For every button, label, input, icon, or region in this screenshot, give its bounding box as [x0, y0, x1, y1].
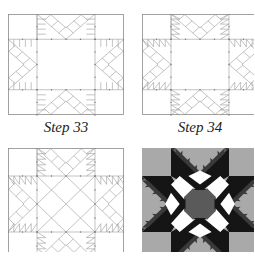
- arm-cell: [110, 190, 117, 196]
- node-dot: [94, 161, 95, 162]
- ladder-diagonal: [229, 39, 235, 47]
- node-dot: [51, 89, 52, 90]
- ladder-diagonal: [220, 100, 229, 105]
- node-dot: [22, 39, 23, 40]
- arm-cell: [186, 102, 193, 108]
- ladder-diagonal: [220, 95, 229, 100]
- ladder-diagonal: [86, 243, 95, 249]
- arm-cell: [59, 239, 66, 245]
- node-dot: [170, 64, 171, 65]
- node-dot: [109, 89, 110, 90]
- step-34-star-drawing: [142, 14, 254, 118]
- ladder-diagonal: [107, 224, 113, 232]
- node-dot: [36, 26, 37, 27]
- ladder-diagonal: [86, 232, 95, 238]
- node-dot: [36, 89, 37, 90]
- ladder-diagonal: [159, 39, 165, 47]
- arm-cell: [81, 149, 88, 155]
- arm-cell: [52, 246, 59, 252]
- arm-cell: [44, 149, 51, 155]
- arm-band: [242, 65, 254, 79]
- node-dot: [80, 175, 81, 176]
- arm-cell: [59, 163, 66, 169]
- node-dot: [170, 102, 171, 103]
- arm-cell: [150, 52, 157, 58]
- ladder-diagonal: [37, 238, 46, 244]
- ladder-diagonal: [112, 176, 118, 184]
- arm-cell: [52, 156, 59, 162]
- ladder-diagonal: [220, 105, 229, 110]
- ladder-diagonal: [86, 159, 95, 165]
- arm-cell: [81, 15, 88, 21]
- ladder-diagonal: [229, 82, 235, 90]
- node-dot: [94, 64, 95, 65]
- arm-cell: [59, 27, 66, 33]
- node-dot: [94, 175, 95, 176]
- node-dot: [65, 89, 66, 90]
- node-dot: [170, 114, 171, 115]
- step-34-diagram: [142, 14, 254, 118]
- node-dot: [80, 89, 81, 90]
- ladder-diagonal: [31, 224, 37, 232]
- arm-cell: [201, 27, 208, 33]
- ladder-diagonal: [14, 176, 20, 184]
- ladder-diagonal: [241, 39, 247, 47]
- ladder-diagonal: [171, 29, 180, 34]
- node-dot: [65, 175, 66, 176]
- node-dot: [228, 89, 229, 90]
- node-dot: [94, 39, 95, 40]
- node-dot: [109, 39, 110, 40]
- node-dot: [228, 102, 229, 103]
- arm-cell: [74, 102, 81, 108]
- node-dot: [214, 89, 215, 90]
- node-dot: [36, 102, 37, 103]
- arm-cell: [67, 163, 74, 169]
- arm-cell: [9, 78, 16, 84]
- block-outline: [9, 15, 124, 115]
- node-dot: [36, 51, 37, 52]
- ladder-diagonal: [171, 100, 180, 105]
- ladder-diagonal: [37, 159, 46, 165]
- node-dot: [36, 114, 37, 115]
- ladder-diagonal: [37, 243, 46, 249]
- arm-cell: [81, 109, 88, 115]
- node-dot: [80, 231, 81, 232]
- node-dot: [199, 39, 200, 40]
- arm-cell: [117, 46, 124, 52]
- block-outline: [143, 15, 255, 115]
- node-dot: [228, 64, 229, 65]
- node-dot: [156, 39, 157, 40]
- ladder-diagonal: [86, 154, 95, 160]
- arm-cell: [16, 71, 23, 77]
- node-dot: [94, 26, 95, 27]
- ladder-diagonal: [241, 82, 247, 90]
- ladder-diagonal: [154, 82, 160, 90]
- node-dot: [22, 231, 23, 232]
- arm-cell: [102, 205, 109, 211]
- star-edge: [229, 39, 254, 64]
- ladder-diagonal: [246, 39, 252, 47]
- node-dot: [170, 26, 171, 27]
- arm-cell: [244, 52, 251, 58]
- arm-cell: [215, 15, 222, 21]
- ladder-diagonal: [37, 165, 46, 171]
- ladder-diagonal: [20, 176, 26, 184]
- node-dot: [94, 231, 95, 232]
- ladder-diagonal: [95, 224, 101, 232]
- node-dot: [185, 89, 186, 90]
- node-dot: [109, 175, 110, 176]
- node-dot: [94, 51, 95, 52]
- step-35-star-drawing: [8, 148, 124, 252]
- node-dot: [51, 175, 52, 176]
- arm-cell: [23, 205, 30, 211]
- node-dot: [109, 231, 110, 232]
- node-dot: [156, 89, 157, 90]
- ladder-diagonal: [101, 176, 107, 184]
- ladder-diagonal: [37, 154, 46, 160]
- node-dot: [228, 76, 229, 77]
- node-dot: [170, 51, 171, 52]
- arm-cell: [74, 21, 81, 27]
- node-dot: [94, 189, 95, 190]
- node-dot: [199, 89, 200, 90]
- ladder-diagonal: [86, 249, 95, 252]
